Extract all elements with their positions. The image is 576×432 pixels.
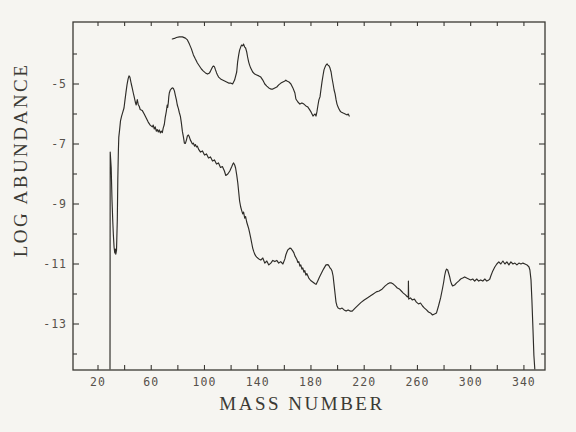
upper-abundance-curve xyxy=(172,37,349,116)
x-axis-ticks xyxy=(98,22,524,370)
x-tick-label: 220 xyxy=(352,375,376,389)
x-tick-label: 60 xyxy=(143,375,159,389)
abundance-figure: LOG ABUNDANCE 2060100140180220260300340-… xyxy=(0,0,576,432)
x-tick-label: 300 xyxy=(459,375,483,389)
lower-abundance-curve xyxy=(110,76,535,369)
x-tick-label: 100 xyxy=(193,375,217,389)
x-tick-label: 260 xyxy=(406,375,430,389)
y-tick-label: -13 xyxy=(43,317,67,331)
x-tick-label: 140 xyxy=(246,375,270,389)
x-tick-label: 20 xyxy=(90,375,106,389)
y-tick-label: -9 xyxy=(51,197,67,211)
y-axis-tick-labels: -5-7-9-11-13 xyxy=(43,77,67,331)
y-axis-ticks xyxy=(73,54,545,354)
x-axis-tick-labels: 2060100140180220260300340 xyxy=(90,375,536,389)
plot-frame xyxy=(73,22,545,370)
x-tick-label: 180 xyxy=(299,375,323,389)
x-axis-title: MASS NUMBER xyxy=(219,393,384,415)
y-tick-label: -5 xyxy=(51,77,67,91)
y-tick-label: -7 xyxy=(51,137,67,151)
x-tick-label: 340 xyxy=(512,375,536,389)
chart-canvas: 2060100140180220260300340-5-7-9-11-13 xyxy=(0,0,576,432)
y-tick-label: -11 xyxy=(43,257,67,271)
